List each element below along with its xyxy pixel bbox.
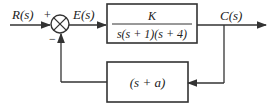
forward-numerator: K: [107, 10, 197, 22]
error-label: E(s): [73, 8, 95, 21]
forward-denominator: s(s + 1)(s + 4): [107, 28, 197, 40]
minus-sign: −: [49, 33, 56, 45]
input-label: R(s): [12, 8, 34, 21]
plus-sign: +: [44, 9, 51, 21]
output-label: C(s): [220, 9, 242, 22]
feedback-text: (s + a): [107, 76, 188, 89]
